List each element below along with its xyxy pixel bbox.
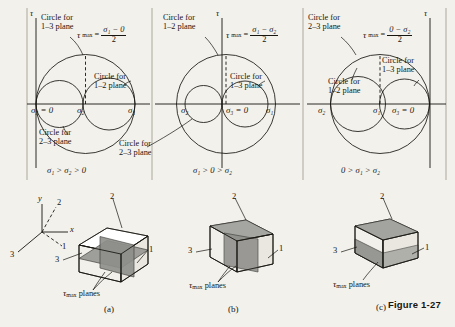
panel-b-axis-point-sigma1: σ₁ [266,106,273,115]
panel-a-circle-label-13: Circle for 1–3 plane [41,14,74,31]
cube-c-label-3: 3 [333,246,337,255]
panel-a-tau-symbol: τ [77,31,80,40]
panel-c-circle-label-13: Circle for 1–3 plane [382,57,415,74]
panel-c-tau-denominator: 2 [387,36,412,45]
panel-b-letter: (b) [228,305,239,314]
panel-b-axis-point-sigma2: σ₂ [181,106,188,115]
stress-element-cube-b [196,198,278,282]
cube-a-label-1: 1 [149,245,153,254]
figure-caption: Figure 1-27 [388,300,441,310]
cube-b-label-2: 2 [232,192,236,201]
cube-c-label-2: 2 [380,192,384,201]
cube-c-label-1: 1 [425,243,429,252]
cube-c-tau-max-planes-label: τmax planes [333,280,370,290]
panel-c-letter: (c) [376,303,386,312]
axis-label-1: 1 [62,242,66,251]
panel-a-letter: (a) [104,305,114,314]
panel-b-circle-label-23: Circle for 2–3 plane [119,140,152,157]
figure-linework: .ln{stroke:#17150f;fill:none;} .circ{str… [0,0,455,327]
panel-c-axis-point-sigma2: σ₂ [318,106,325,115]
panel-a-axis-point-sigma1: σ₁ [128,106,135,115]
panel-a-tau-axis-label: τ [30,9,33,18]
axis-label-2: 2 [57,198,61,207]
panel-a-circle-label-23: Circle for 2–3 plane [39,129,72,146]
panel-b-tau-subscript: max [231,32,241,38]
cube-a-tau-max-planes-label: τmax planes [63,289,100,299]
cube-a-label-3: 3 [55,255,59,264]
panel-a-axis-point-sigma2: σ₂ [77,106,84,115]
panel-a-axis-point-sigma3: σ₃ = 0 [31,106,53,115]
figure-1-27: .ln{stroke:#17150f;fill:none;} .circ{str… [0,0,455,327]
axis-label-x: x [70,225,74,234]
panel-a-condition: σ₁ > σ₂ > 0 [47,166,86,175]
panel-b-condition: σ₁ > 0 > σ₂ [193,166,232,175]
cube-b-label-3: 3 [188,246,192,255]
panel-a-tau-denominator: 2 [101,36,126,45]
panel-c-tau-subscript: max [368,32,378,38]
cube-b-label-1: 1 [279,244,283,253]
panel-a-tau-subscript: max [82,32,92,38]
panel-b-tau-symbol: τ [226,31,229,40]
panel-b-tau-max-equation: τmax = σ₁ − σ₂ 2 [226,26,278,45]
panel-c-axis-point-sigma1: σ₁ [373,106,380,115]
stress-element-cube-a [63,199,148,290]
panel-b-tau-axis-label: τ [216,9,219,18]
panel-c-circle-label-23: Circle for 2–3 plane [308,14,341,31]
panel-a-circle-label-12: Circle for 1–2 plane [94,73,127,90]
panel-c-axis-point-sigma3: σ₃ = 0 [392,106,414,115]
panel-c-circle-label-12: Circle for 1–2 plane [328,78,361,95]
panel-c-tau-axis-label: τ [424,9,427,18]
panel-c-tau-symbol: τ [363,31,366,40]
panel-c-tau-max-equation: τmax = 0 − σ₂ 2 [363,26,412,45]
panel-b-tau-denominator: 2 [250,36,278,45]
cube-a-label-2: 2 [110,192,114,201]
panel-b-circle-label-13: Circle for 1–3 plane [230,73,263,90]
coordinate-axes-triad [18,204,68,252]
axis-label-3: 3 [10,250,14,259]
stress-element-cube-c [341,198,424,280]
panel-a-tau-max-equation: τmax = σ₁ − 0 2 [77,26,126,45]
panel-b-axis-point-sigma3: σ₃ = 0 [226,106,248,115]
panel-b-circle-label-12: Circle for 1–2 plane [163,14,196,31]
cube-b-tau-max-planes-label: τmax planes [189,281,226,291]
panel-c-condition: 0 > σ₁ > σ₂ [341,166,380,175]
axis-label-y: y [38,194,42,203]
